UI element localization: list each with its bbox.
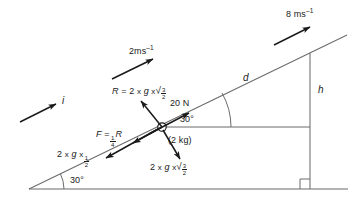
angle-arc-base [61, 174, 65, 189]
velocity-2-exponent: –1 [146, 44, 153, 51]
velocity-8-label: 8 ms–1 [286, 10, 313, 19]
mass-label: (2 kg) [168, 136, 192, 145]
height-h-label: h [318, 85, 324, 95]
velocity-2-arrow [112, 59, 153, 79]
weight-perp-radical: √32 [176, 163, 187, 177]
weight-parallel-label: 2 x g x12 [57, 150, 89, 168]
reaction-R-arrow [141, 101, 162, 127]
physics-inclined-plane-diagram: 8 ms–1 2ms–1 i R = 2 x g x√32 20 N F =14… [0, 0, 361, 208]
unit-vector-i-label: i [62, 96, 64, 106]
weight-perpendicular-label: 2 x g x√32 [150, 163, 187, 177]
velocity-8-exponent: –1 [306, 7, 313, 14]
velocity-2-label: 2ms–1 [129, 47, 154, 56]
weight-parallel-fraction: 12 [84, 155, 89, 169]
reaction-radical: √32 [155, 87, 166, 101]
right-angle-marker [300, 179, 310, 189]
angle-arc-block [222, 93, 231, 127]
angle-base-label: 30° [70, 176, 84, 185]
applied-force-label: 20 N [170, 99, 189, 108]
velocity-8-arrow [274, 27, 310, 45]
friction-label: F =14R [96, 130, 122, 148]
distance-d-label: d [243, 73, 249, 83]
angle-block-label: 30° [180, 115, 194, 124]
unit-vector-i-arrow [20, 104, 56, 122]
reaction-R-label: R = 2 x g x√32 [112, 87, 166, 101]
